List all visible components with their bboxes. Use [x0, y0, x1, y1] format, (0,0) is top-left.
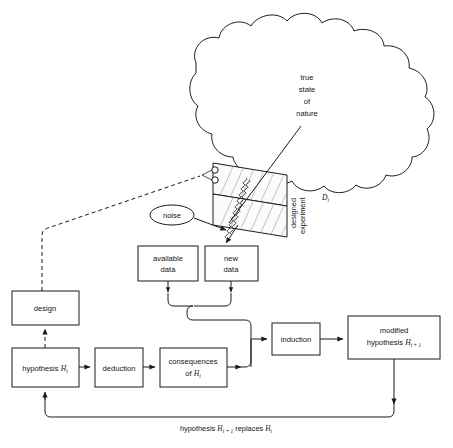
box-available-data: available data	[138, 246, 198, 281]
cloud-label: true state of nature	[296, 73, 318, 118]
cloud-label-line-1: state	[299, 85, 315, 94]
experiment-symbol: Di	[321, 193, 329, 203]
available-data-line-1: data	[161, 265, 177, 274]
box-modified-hypothesis: modified hypothesis Hi + 1	[348, 316, 440, 359]
experiment-label-line-1: designed	[289, 198, 298, 228]
box-deduction: deduction	[95, 348, 143, 387]
experiment-label-line-2: experiment	[298, 197, 307, 234]
deduction-label: deduction	[103, 364, 136, 373]
box-design: design	[12, 291, 79, 325]
consequences-line-1: of Hi	[185, 369, 201, 379]
knob-linkage	[202, 170, 212, 180]
modified-hypothesis-line-0: modified	[380, 326, 409, 335]
new-data-line-1: data	[224, 265, 240, 274]
edge-feedback-loop	[45, 397, 394, 417]
new-data-line-0: new	[224, 254, 238, 263]
available-data-rect	[138, 246, 198, 281]
experiment-label: designed experiment	[289, 197, 307, 234]
noise-label: noise	[163, 211, 181, 220]
cloud-label-line-3: nature	[296, 109, 318, 118]
feedback-loop-label: hypothesis Hi + 1 replaces Hi	[180, 424, 273, 434]
experiment-knob-upper-icon	[212, 167, 218, 173]
available-data-line-0: available	[153, 254, 183, 263]
consequences-rect	[160, 348, 227, 387]
figure-root: true state of nature	[0, 0, 453, 448]
induction-label: induction	[281, 335, 311, 344]
box-induction: induction	[272, 323, 320, 355]
box-new-data: new data	[205, 246, 258, 281]
box-hypothesis: hypothesis Hi	[12, 348, 79, 387]
diagram-canvas: true state of nature	[0, 0, 453, 448]
edge-available-data-merge	[168, 293, 193, 306]
edge-new-data-merge	[194, 293, 231, 306]
experiment-knob-lower-icon	[212, 177, 218, 183]
hypothesis-label: hypothesis Hi	[22, 364, 68, 374]
consequences-line-0: consequences	[169, 357, 218, 366]
cloud-label-line-2: of	[304, 97, 311, 106]
experiment-symbol-letter: Di	[321, 193, 329, 203]
design-label: design	[34, 304, 56, 313]
designed-experiment-panel: designed experiment Di	[202, 126, 329, 243]
new-data-rect	[205, 246, 258, 281]
box-consequences: consequences of Hi	[160, 348, 227, 387]
cloud-label-line-0: true	[300, 73, 313, 82]
